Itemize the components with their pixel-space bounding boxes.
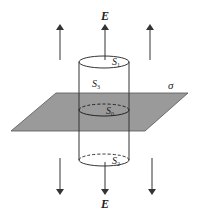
- surface-label-s3: S3: [92, 78, 100, 90]
- cylinder-top-cap: [79, 56, 129, 68]
- plane-label-sigma: σ: [168, 79, 174, 91]
- gauss-cylinder-diagram: E E S1 S3 S0 S2 σ: [0, 0, 199, 215]
- charged-plane: [11, 93, 188, 131]
- cylinder-bottom-cap-front: [79, 160, 129, 166]
- surface-label-s1: S1: [112, 56, 120, 68]
- field-label-bottom: E: [100, 197, 109, 211]
- cylinder-bottom-cap-back: [79, 154, 129, 160]
- surface-label-s2: S2: [112, 155, 120, 167]
- field-label-top: E: [100, 9, 109, 23]
